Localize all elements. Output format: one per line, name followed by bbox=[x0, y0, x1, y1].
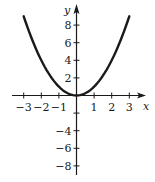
x-tick-label: 3 bbox=[126, 101, 133, 114]
x-tick-label: −1 bbox=[51, 101, 67, 114]
y-tick-label: −4 bbox=[55, 125, 71, 138]
x-tick-label: 1 bbox=[91, 101, 98, 114]
y-tick-label: 6 bbox=[65, 37, 72, 50]
x-tick-label: 2 bbox=[108, 101, 115, 114]
parabola-chart: −3−2−11238642−4−6−8 x y bbox=[0, 0, 155, 182]
x-tick-label: −3 bbox=[16, 101, 32, 114]
y-tick-label: 8 bbox=[65, 19, 72, 32]
y-tick-label: −8 bbox=[55, 160, 71, 173]
y-tick-label: 2 bbox=[65, 72, 72, 85]
y-tick-label: 4 bbox=[65, 54, 72, 67]
y-tick-label: −6 bbox=[55, 142, 71, 155]
x-tick-label: −2 bbox=[33, 101, 49, 114]
x-axis-label: x bbox=[143, 100, 150, 113]
y-axis-label: y bbox=[63, 4, 71, 17]
